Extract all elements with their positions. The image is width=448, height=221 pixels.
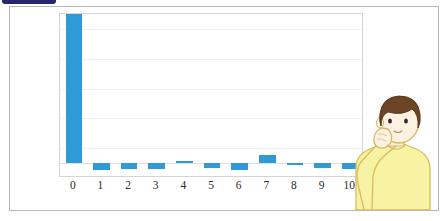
x-axis-tick-label: 3 — [153, 180, 159, 192]
x-axis-tick-label: 6 — [236, 180, 242, 192]
thinking-person-illustration — [342, 92, 434, 210]
x-axis-tick-label: 0 — [70, 180, 76, 192]
gridline — [60, 118, 362, 119]
bar-1 — [93, 163, 110, 170]
bar-7 — [259, 155, 276, 163]
gridline — [60, 148, 362, 149]
x-axis-tick-label: 2 — [125, 180, 131, 192]
gridline — [60, 59, 362, 60]
gridline — [60, 89, 362, 90]
bar-2 — [121, 163, 138, 169]
x-axis-tick-label: 4 — [180, 180, 186, 192]
bar-4 — [176, 161, 193, 163]
cut-off-title-bar — [2, 0, 56, 4]
bar-3 — [148, 163, 165, 169]
bar-chart: 0.90.70.50.30.10-0.1 012345678910 — [59, 13, 363, 185]
bar-8 — [287, 163, 304, 165]
x-axis-tick-label: 5 — [208, 180, 214, 192]
x-axis-tick-label: 1 — [98, 180, 104, 192]
bar-9 — [314, 163, 331, 168]
bar-0 — [66, 14, 83, 163]
gridline — [60, 29, 362, 30]
chart-panel: 0.90.70.50.30.10-0.1 012345678910 — [9, 6, 439, 211]
bar-5 — [204, 163, 221, 168]
x-axis-tick-label: 7 — [263, 180, 269, 192]
plot-area: 0.90.70.50.30.10-0.1 — [59, 13, 363, 177]
bar-6 — [231, 163, 248, 170]
x-axis-tick-label: 8 — [291, 180, 297, 192]
x-axis-tick-label: 9 — [319, 180, 325, 192]
